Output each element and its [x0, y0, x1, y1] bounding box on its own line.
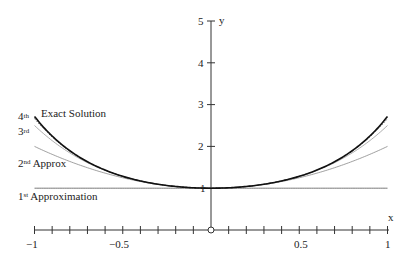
x-axis-label: x — [388, 211, 394, 223]
annotation-exact-solution: Exact Solution — [41, 107, 107, 119]
x-tick-label-neg1: −1 — [26, 238, 38, 250]
annotation-3rd: 3rd — [18, 125, 30, 137]
y-tick-label-1: 1 — [200, 182, 206, 194]
y-tick-label-3: 3 — [198, 98, 204, 110]
x-tick-label-05: 0.5 — [294, 238, 308, 250]
x-tick-label-1: 1 — [385, 238, 391, 250]
y-tick-label-4: 4 — [198, 57, 204, 69]
y-tick-label-5: 5 — [198, 15, 204, 27]
annotation-1st-approximation: 1st Approximation — [18, 190, 98, 202]
y-axis-label: y — [219, 14, 225, 26]
chart-canvas: x y 5 4 3 2 1 −1 −0.5 0.5 1 4th Exact So… — [0, 0, 413, 263]
annotation-2nd-approx: 2nd Approx — [18, 157, 67, 169]
y-tick-label-2: 2 — [198, 140, 204, 152]
x-tick-label-neg05: −0.5 — [109, 238, 129, 250]
origin-marker — [208, 227, 214, 233]
annotation-4th: 4th — [18, 110, 29, 122]
